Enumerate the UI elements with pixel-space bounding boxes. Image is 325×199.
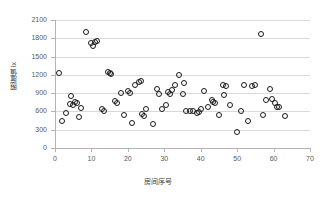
data-point — [114, 100, 120, 106]
data-point — [212, 100, 218, 106]
x-tick-label: 10 — [81, 155, 101, 163]
data-point — [83, 29, 89, 35]
data-point — [205, 104, 211, 110]
data-point — [129, 120, 135, 126]
data-point — [181, 80, 187, 86]
x-tick-mark — [128, 148, 129, 152]
x-tick-mark — [91, 148, 92, 152]
y-tick-label: 300 — [35, 126, 47, 134]
data-point — [223, 83, 229, 89]
data-point — [78, 105, 84, 111]
x-tick-label: 40 — [191, 155, 211, 163]
data-point — [143, 106, 149, 112]
data-point — [68, 93, 74, 99]
data-point — [267, 86, 273, 92]
data-point — [198, 106, 204, 112]
y-tick-mark — [51, 130, 55, 131]
data-point — [234, 129, 240, 135]
y-tick-label: 1200 — [31, 71, 47, 79]
data-point — [59, 118, 65, 124]
y-tick-mark — [51, 20, 55, 21]
data-point — [56, 70, 62, 76]
data-point — [221, 92, 227, 98]
y-tick-mark — [51, 57, 55, 58]
x-tick-label: 50 — [227, 155, 247, 163]
y-tick-label: 600 — [35, 107, 47, 115]
data-point — [176, 72, 182, 78]
data-point — [172, 82, 178, 88]
x-tick-mark — [274, 148, 275, 152]
data-point — [101, 108, 107, 114]
data-point — [138, 78, 144, 84]
y-tick-mark — [51, 93, 55, 94]
y-tick-label: 2100 — [31, 16, 47, 24]
data-point — [216, 112, 222, 118]
y-axis-title: 照度值 lx — [9, 62, 21, 90]
data-point — [252, 82, 258, 88]
data-point — [63, 110, 69, 116]
plot-area — [55, 20, 310, 148]
data-point — [227, 102, 233, 108]
scatter-chart: 照度值 lx 房间序号 0300600900120015001800210001… — [0, 0, 325, 199]
data-point — [141, 113, 147, 119]
x-tick-mark — [237, 148, 238, 152]
x-tick-label: 20 — [118, 155, 138, 163]
x-axis-line — [55, 148, 310, 149]
y-tick-mark — [51, 38, 55, 39]
data-point — [276, 104, 282, 110]
data-point — [150, 121, 156, 127]
x-tick-label: 60 — [264, 155, 284, 163]
y-tick-label: 1500 — [31, 53, 47, 61]
x-tick-mark — [164, 148, 165, 152]
data-point — [180, 91, 186, 97]
data-point — [245, 118, 251, 124]
y-tick-label: 0 — [43, 144, 47, 152]
x-tick-label: 70 — [300, 155, 320, 163]
data-point — [76, 114, 82, 120]
data-point — [163, 102, 169, 108]
data-point — [258, 31, 264, 37]
data-point — [238, 108, 244, 114]
x-tick-label: 0 — [45, 155, 65, 163]
data-point — [108, 71, 114, 77]
data-point — [94, 38, 100, 44]
data-point — [282, 113, 288, 119]
data-point — [156, 91, 162, 97]
data-point — [121, 112, 127, 118]
y-tick-label: 900 — [35, 89, 47, 97]
data-point — [241, 82, 247, 88]
y-tick-label: 1800 — [31, 34, 47, 42]
x-tick-label: 30 — [154, 155, 174, 163]
x-tick-mark — [310, 148, 311, 152]
data-point — [118, 90, 124, 96]
x-axis-title: 房间序号 — [0, 176, 325, 186]
x-tick-mark — [201, 148, 202, 152]
data-point — [201, 88, 207, 94]
data-point — [127, 90, 133, 96]
y-tick-mark — [51, 75, 55, 76]
y-tick-mark — [51, 111, 55, 112]
data-point — [260, 112, 266, 118]
x-tick-mark — [55, 148, 56, 152]
